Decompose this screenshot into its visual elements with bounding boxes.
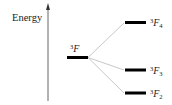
- parent-level-label: 3F: [70, 43, 80, 54]
- energy-level-diagram: Energy 3F 3F4 3F3 3F2: [0, 0, 172, 105]
- level-label-3F4: 3F4: [150, 17, 163, 29]
- parent-level-bar: [67, 56, 88, 59]
- connector-line: [88, 58, 124, 94]
- level-bar-3F2: [125, 92, 146, 95]
- axis-arrowhead-icon: [46, 3, 50, 10]
- connector-line: [88, 23, 124, 58]
- level-bar-3F3: [125, 69, 146, 72]
- connector-line: [88, 58, 124, 71]
- axis-label: Energy: [12, 12, 43, 23]
- level-label-3F3: 3F3: [150, 65, 163, 77]
- level-bar-3F4: [125, 21, 146, 24]
- level-label-3F2: 3F2: [150, 88, 163, 100]
